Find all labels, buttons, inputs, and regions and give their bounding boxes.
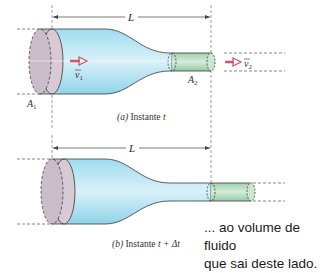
inlet-disk-a (29, 29, 63, 94)
area-a2-label: A2 (187, 74, 198, 87)
arrowhead-left-icon (53, 146, 58, 150)
annotation-line-2: que sai deste lado. (204, 255, 324, 273)
velocity-v2-label: v2 (244, 58, 252, 71)
length-label-b: L (128, 142, 135, 154)
annotation-line-1: ... ao volume de fluido (204, 219, 324, 255)
caption-b: (b) Instante t + Δt (112, 239, 180, 250)
inlet-disk-b (41, 159, 75, 224)
area-a1-label: A1 (26, 98, 37, 111)
length-label-a: L (127, 11, 134, 23)
outlet-volume-a (168, 53, 215, 71)
velocity-arrow-v2-icon (225, 58, 241, 66)
annotation-text: ... ao volume de fluido que sai deste la… (204, 219, 324, 273)
panel-a: L v1 v2 A1 A2 (a) Instante t (17, 5, 285, 130)
arrowhead-left-icon (53, 15, 58, 19)
caption-a: (a) Instante t (117, 112, 166, 123)
fluid-tube-b (64, 159, 211, 224)
svg-text:L: L (127, 11, 134, 23)
arrowhead-right-icon (205, 146, 210, 150)
arrowhead-right-icon (205, 15, 210, 19)
outlet-volume-b (207, 183, 255, 201)
svg-text:L: L (128, 142, 135, 154)
